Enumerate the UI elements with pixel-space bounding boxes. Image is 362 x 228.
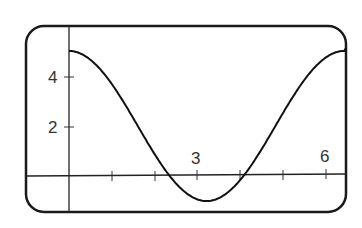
y-tick-label-2: 2 <box>48 118 57 137</box>
graph: 4 2 3 6 <box>0 0 362 228</box>
x-axis <box>26 174 346 176</box>
graph-frame <box>26 26 346 212</box>
curve-line <box>69 48 346 201</box>
x-tick-label-6: 6 <box>320 147 329 166</box>
x-tick-label-3: 3 <box>191 149 200 168</box>
y-tick-label-4: 4 <box>48 68 57 87</box>
